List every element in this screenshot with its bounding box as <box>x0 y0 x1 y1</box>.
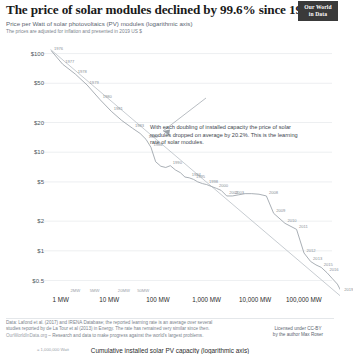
x-axis-tick-label: 10,000 MW <box>239 296 271 303</box>
y-axis-tick-label: $20 <box>2 120 44 126</box>
chart-svg <box>0 40 340 298</box>
y-axis-tick-label: $10 <box>2 149 44 155</box>
chart-header: The price of solar modules declined by 9… <box>6 2 334 35</box>
data-point-year-label: 2012 <box>307 248 316 253</box>
data-point-year-label: 2019 <box>344 287 353 292</box>
source-note: Data: Lafond et al. (2017) and IRENA Dat… <box>6 320 251 339</box>
x-axis-tick-label: 100,000 MW <box>286 296 322 303</box>
x-axis-minor-tick-label: 5MW <box>90 288 100 293</box>
data-point-year-label: 2000 <box>219 183 228 188</box>
data-point-year-label: 2003 <box>235 190 244 195</box>
y-axis-tick-label: $100 <box>2 51 44 57</box>
footer-divider <box>6 318 334 319</box>
page-title: The price of solar modules declined by 9… <box>6 2 334 17</box>
chart-subtitle: Price per Watt of solar photovoltaics (P… <box>6 20 334 28</box>
x-axis-minor-tick-label: 2MW <box>70 288 80 293</box>
logo-line-2: in Data <box>298 11 338 18</box>
data-point-year-label: 2008 <box>269 190 278 195</box>
y-axis-tick-label: $0.5 <box>2 278 44 284</box>
data-point-year-label: 1976 <box>54 46 63 51</box>
data-point-year-label: 1980 <box>103 94 112 99</box>
x-axis-unit-note: = 1,000,000 Watt <box>37 347 69 352</box>
data-point-year-label: 1977 <box>65 59 74 64</box>
x-axis-minor-tick-label: 20MW <box>118 288 130 293</box>
x-axis-tick-label: 1 MW <box>52 296 68 303</box>
data-point-year-label: 2011 <box>299 224 308 229</box>
x-axis-minor-tick-label: 50MW <box>137 288 149 293</box>
our-world-in-data-logo[interactable]: Our World in Data <box>298 1 338 21</box>
data-point-year-label: 1979 <box>90 80 99 85</box>
owid-link[interactable]: OurWorldInData.org <box>6 333 47 338</box>
x-axis-tick-label: 10 MW <box>99 296 119 303</box>
y-axis-tick-label: $1 <box>2 248 44 254</box>
data-point-year-label: 2016 <box>330 267 339 272</box>
data-point-year-label: 1998 <box>209 179 218 184</box>
learning-rate-annotation: With each doubling of installed capacity… <box>150 124 300 147</box>
y-axis-tick-label: $50 <box>2 80 44 86</box>
data-point-year-label: 1990 <box>173 160 182 165</box>
data-point-year-label: 2010 <box>287 218 296 223</box>
x-axis-tick-label: 100 MW <box>146 296 169 303</box>
gridlines <box>42 54 332 281</box>
data-point-year-label: 2009 <box>276 208 285 213</box>
source-line-3: OurWorldInData.org – Research and data t… <box>6 333 251 339</box>
data-point-year-label: 1981 <box>114 106 123 111</box>
data-point-year-label: 2013 <box>313 256 322 261</box>
y-axis-tick-label: $5 <box>2 179 44 185</box>
data-point-year-label: 1995 <box>196 174 205 179</box>
chart-subtitle-note: The prices are adjusted for inflation an… <box>6 28 334 35</box>
data-point-year-label: 1983 <box>135 123 144 128</box>
data-point-year-label: 1978 <box>78 69 87 74</box>
license-line-2: by the author Max Roser <box>254 332 342 338</box>
data-point-year-label: 2015 <box>324 262 333 267</box>
logo-line-1: Our World <box>298 4 338 11</box>
license-note: Licensed under CC-BY by the author Max R… <box>254 326 342 339</box>
y-axis-tick-label: $2 <box>2 218 44 224</box>
x-axis-tick-label: 1,000 MW <box>192 296 221 303</box>
source-line-3-rest: – Research and data to make progress aga… <box>47 333 203 338</box>
chart-plot-area: $100$50$20$10$5$2$1$0.5 1976197719781979… <box>0 40 340 298</box>
